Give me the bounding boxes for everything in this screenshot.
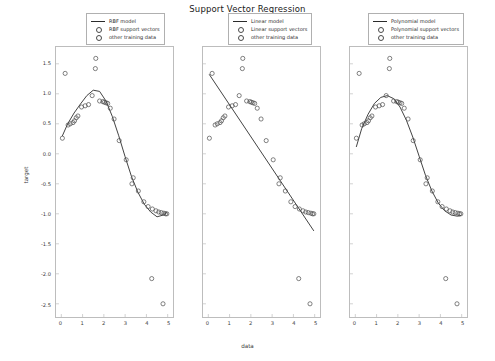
legend-rbf: RBF model RBF support vectors other trai… xyxy=(86,13,165,45)
legend-label: Polynomial support vectors xyxy=(391,25,459,33)
legend-label: Polynomial model xyxy=(391,17,435,25)
legend-entry: other training data xyxy=(232,33,307,41)
y-tick-label: -0.5 xyxy=(25,181,51,187)
legend-entry: Linear model xyxy=(232,17,307,25)
x-axis-label: data xyxy=(0,343,495,349)
x-tick-label: 0 xyxy=(52,320,68,326)
legend-entry: Polynomial model xyxy=(372,17,459,25)
legend-entry: Linear support vectors xyxy=(232,25,307,33)
circle-marker-icon xyxy=(232,25,248,33)
legend-entry: other training data xyxy=(372,33,459,41)
x-tick-label: 2 xyxy=(390,320,406,326)
legend-label: other training data xyxy=(251,33,298,41)
y-tick-label: 0.5 xyxy=(25,120,51,126)
y-tick-label: -2.0 xyxy=(25,271,51,277)
legend-entry: RBF support vectors xyxy=(90,25,160,33)
svr-figure: Support Vector Regression target data 1.… xyxy=(0,0,495,361)
x-tick-label: 3 xyxy=(117,320,133,326)
legend-label: RBF model xyxy=(109,17,136,25)
x-tick-labels-rbf: 012345 xyxy=(55,320,174,332)
circle-marker-icon xyxy=(372,33,388,41)
legend-label: RBF support vectors xyxy=(109,25,160,33)
legend-entry: Polynomial support vectors xyxy=(372,25,459,33)
legend-linear: Linear model Linear support vectors othe… xyxy=(228,13,312,45)
x-tick-label: 4 xyxy=(286,320,302,326)
subplot-polynomial xyxy=(349,46,468,318)
x-tick-label: 2 xyxy=(96,320,112,326)
circle-marker-icon xyxy=(90,25,106,33)
line-swatch-icon xyxy=(232,17,248,25)
x-tick-label: 5 xyxy=(161,320,177,326)
polynomial-plot-area xyxy=(350,47,467,317)
legend-entry: RBF model xyxy=(90,17,160,25)
y-tick-label: 0.0 xyxy=(25,151,51,157)
y-tick-label: -1.0 xyxy=(25,211,51,217)
y-tick-label: 1.0 xyxy=(25,90,51,96)
legend-label: Linear support vectors xyxy=(251,25,307,33)
y-tick-label: 1.5 xyxy=(25,60,51,66)
x-tick-label: 1 xyxy=(74,320,90,326)
x-tick-label: 1 xyxy=(221,320,237,326)
x-tick-label: 3 xyxy=(264,320,280,326)
x-tick-labels-linear: 012345 xyxy=(202,320,321,332)
x-tick-label: 3 xyxy=(411,320,427,326)
y-tick-label: -2.5 xyxy=(25,302,51,308)
line-swatch-icon xyxy=(90,17,106,25)
rbf-plot-area xyxy=(56,47,173,317)
legend-label: other training data xyxy=(109,33,156,41)
x-tick-label: 0 xyxy=(199,320,215,326)
x-tick-label: 5 xyxy=(308,320,324,326)
y-tick-label: -1.5 xyxy=(25,241,51,247)
subplot-linear xyxy=(202,46,321,318)
legend-label: other training data xyxy=(391,33,438,41)
line-swatch-icon xyxy=(372,17,388,25)
circle-marker-icon xyxy=(90,33,106,41)
x-tick-label: 1 xyxy=(368,320,384,326)
legend-label: Linear model xyxy=(251,17,284,25)
x-tick-label: 2 xyxy=(243,320,259,326)
legend-polynomial: Polynomial model Polynomial support vect… xyxy=(368,13,464,45)
x-tick-labels-polynomial: 012345 xyxy=(349,320,468,332)
x-tick-label: 0 xyxy=(346,320,362,326)
x-tick-label: 4 xyxy=(433,320,449,326)
circle-marker-icon xyxy=(232,33,248,41)
legend-entry: other training data xyxy=(90,33,160,41)
x-tick-label: 4 xyxy=(139,320,155,326)
x-tick-label: 5 xyxy=(455,320,471,326)
subplot-rbf xyxy=(55,46,174,318)
circle-marker-icon xyxy=(372,25,388,33)
y-tick-labels: 1.51.00.50.0-0.5-1.0-1.5-2.0-2.5 xyxy=(23,46,51,318)
linear-plot-area xyxy=(203,47,320,317)
